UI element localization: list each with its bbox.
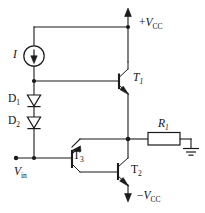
- transistor-t1-label-sub: 1: [139, 77, 143, 86]
- supply-positive-arrow-icon: [125, 8, 132, 17]
- transistor-t1-symbol: [119, 62, 129, 139]
- resistor-r1-label-sub: 1: [165, 123, 169, 132]
- resistor-r1-label-text: R: [158, 117, 165, 129]
- transistor-t2-label-sub: 2: [138, 169, 142, 178]
- supply-positive-text: V: [146, 16, 153, 28]
- diode-d1-label: D1: [8, 93, 20, 105]
- supply-negative-arrow-icon: [125, 194, 132, 203]
- diode-d1-symbol: [27, 81, 40, 117]
- transistor-t2-symbol: [118, 139, 129, 197]
- diode-d2-label: D2: [8, 115, 20, 127]
- input-terminal-dot: [14, 156, 18, 160]
- resistor-r1-symbol: [148, 133, 191, 146]
- input-terminal-text: V: [14, 165, 21, 177]
- supply-negative-label: −VCC: [137, 190, 161, 202]
- transistor-t1-label: T1: [133, 72, 143, 84]
- ground-symbol: [183, 139, 199, 155]
- wire-top-supply-rail: [34, 12, 128, 62]
- transistor-t3-label: T3: [73, 150, 84, 162]
- diode-d2-label-sub: 2: [16, 120, 20, 129]
- transistor-t2-label-text: T: [131, 163, 138, 175]
- supply-negative-text: V: [144, 189, 151, 201]
- supply-positive-sub: CC: [153, 22, 163, 31]
- node-dot-vcc-rail: [126, 25, 130, 29]
- transistor-t3-label-text: T: [73, 149, 80, 161]
- current-source-label: I: [13, 49, 17, 61]
- supply-positive-label: +VCC: [139, 17, 163, 29]
- circuit-diagram: I D1 D2 T1 T2 T3 R1 +VCC −VCC Vin: [0, 0, 205, 213]
- current-source-symbol: [24, 46, 44, 81]
- diode-d1-label-sub: 1: [16, 98, 20, 107]
- transistor-t2-label: T2: [131, 164, 142, 176]
- input-terminal-label: Vin: [14, 166, 27, 178]
- circuit-schematic-svg: [0, 0, 205, 213]
- node-dot-input-junction: [32, 156, 36, 160]
- resistor-r1-label: R1: [158, 118, 169, 130]
- transistor-t3-label-sub: 3: [80, 155, 84, 164]
- supply-negative-sub: CC: [151, 195, 161, 204]
- diode-d2-symbol: [27, 117, 40, 158]
- input-terminal-sub: in: [21, 171, 27, 180]
